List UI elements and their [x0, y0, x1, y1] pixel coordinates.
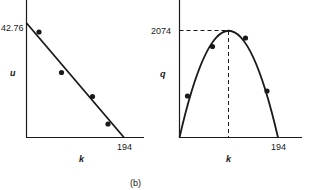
- left-y-axis-label: u: [10, 68, 16, 78]
- right-data-point: [243, 35, 248, 40]
- left-data-point: [59, 70, 64, 75]
- right-x-value-label: 194: [271, 142, 286, 152]
- right-data-point: [264, 88, 269, 93]
- left-fit-line: [27, 23, 125, 138]
- left-data-point: [105, 121, 110, 126]
- right-data-point: [185, 93, 190, 98]
- left-chart: 42.76 u 194 k: [1, 0, 144, 164]
- right-y-value-label: 2074: [151, 26, 171, 36]
- right-y-axis-label: q: [160, 69, 166, 79]
- figure-canvas: 42.76 u 194 k 2074 q 194 k (b): [0, 0, 316, 190]
- right-chart: 2074 q 194 k: [151, 0, 302, 164]
- left-x-axis-label: k: [79, 154, 85, 164]
- left-data-point: [36, 29, 41, 34]
- right-data-point: [210, 44, 215, 49]
- left-data-point: [90, 94, 95, 99]
- left-x-value-label: 194: [117, 142, 132, 152]
- right-x-axis-label: k: [226, 154, 232, 164]
- figure-label: (b): [130, 178, 141, 188]
- left-y-value-label: 42.76: [1, 23, 24, 33]
